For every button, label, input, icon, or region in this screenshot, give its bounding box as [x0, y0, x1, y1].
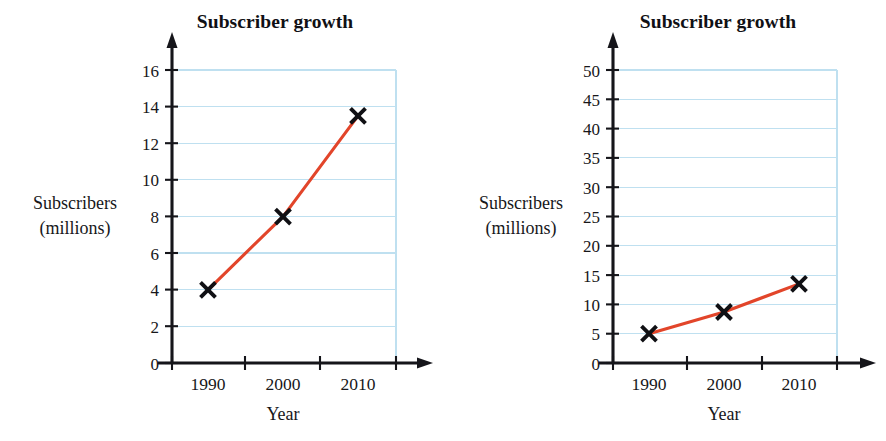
x-axis-label: Year	[707, 404, 740, 424]
series-line	[649, 284, 799, 334]
y-tick-label: 50	[583, 62, 600, 81]
y-axis	[608, 32, 619, 363]
y-axis-arrowhead	[608, 32, 619, 48]
x-axis-tick-labels: 1990 2000 2010	[191, 374, 376, 394]
y-tick-label: 0	[151, 355, 160, 374]
left-chart-svg: Subscriber growth	[0, 0, 443, 441]
x-tick-label: 1990	[632, 374, 667, 394]
y-tick-label: 30	[583, 179, 600, 198]
x-tick-label: 1990	[191, 374, 226, 394]
x-axis-label: Year	[266, 404, 299, 424]
y-axis-tick-labels: 0 2 4 6 8 10 12 14 16	[142, 62, 160, 374]
y-tick-label: 35	[583, 149, 600, 168]
y-tick-label: 12	[142, 135, 159, 154]
right-chart-svg: Subscriber growth	[443, 0, 886, 441]
y-axis-label: Subscribers (millions)	[479, 193, 563, 239]
y-axis-label-line2: (millions)	[486, 218, 557, 239]
y-axis-tick-labels: 0 5 10 15 20 25 30 35 40 45 50	[583, 62, 600, 374]
y-tick-label: 8	[151, 208, 160, 227]
y-tick-label: 2	[151, 318, 160, 337]
data-point-marker	[351, 108, 366, 123]
chart-panel-right: Subscriber growth	[443, 0, 886, 441]
chart-title: Subscriber growth	[640, 11, 797, 32]
y-tick-label: 0	[592, 355, 601, 374]
y-tick-label: 10	[583, 296, 600, 315]
y-tick-label: 14	[142, 98, 160, 117]
x-tick-label: 2000	[707, 374, 742, 394]
y-tick-label: 10	[142, 171, 159, 190]
x-axis	[158, 358, 433, 369]
x-axis-arrowhead	[860, 358, 876, 369]
y-axis-label-line2: (millions)	[40, 218, 111, 239]
x-tick-label: 2010	[341, 374, 376, 394]
data-point-marker	[792, 276, 807, 291]
y-tick-label: 15	[583, 267, 600, 286]
y-tick-label: 20	[583, 237, 600, 256]
y-tick-label: 6	[151, 245, 160, 264]
x-axis-arrowhead	[417, 358, 433, 369]
y-tick-label: 4	[151, 281, 160, 300]
y-tick-label: 5	[592, 325, 601, 344]
y-axis-label-line1: Subscribers	[33, 193, 117, 213]
y-tick-label: 16	[142, 62, 159, 81]
series-line	[208, 116, 358, 290]
y-tick-label: 45	[583, 91, 600, 110]
y-tick-label: 40	[583, 120, 600, 139]
y-axis-arrowhead	[167, 32, 178, 48]
gridlines-horizontal	[613, 70, 837, 334]
figure-container: Subscriber growth	[0, 0, 886, 441]
chart-panel-left: Subscriber growth	[0, 0, 443, 441]
x-axis-tick-labels: 1990 2000 2010	[632, 374, 817, 394]
chart-title: Subscriber growth	[197, 11, 354, 32]
y-axis-label: Subscribers (millions)	[33, 193, 117, 239]
x-tick-label: 2010	[782, 374, 817, 394]
x-axis	[599, 358, 876, 369]
x-tick-label: 2000	[266, 374, 301, 394]
y-tick-label: 25	[583, 208, 600, 227]
y-axis-label-line1: Subscribers	[479, 193, 563, 213]
y-axis	[167, 32, 178, 363]
